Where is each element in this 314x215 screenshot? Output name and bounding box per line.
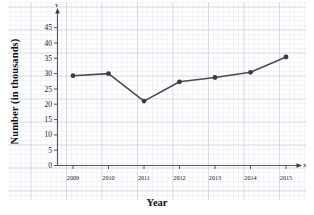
data-point-2014 [248, 70, 253, 75]
data-line [73, 57, 286, 101]
data-point-2010 [106, 71, 111, 76]
data-point-2013 [213, 75, 218, 80]
data-markers [71, 55, 289, 104]
plot-svg [0, 0, 314, 215]
x-axis-arrow [297, 163, 303, 167]
data-point-2015 [284, 55, 289, 60]
data-point-2009 [71, 73, 76, 78]
data-point-2012 [177, 79, 182, 84]
y-axis-arrow [55, 8, 60, 14]
axis-lines [55, 8, 302, 168]
line-chart: Number (in thousands) Year Y X 0 5 10 15… [0, 0, 314, 215]
data-point-2011 [142, 99, 147, 104]
